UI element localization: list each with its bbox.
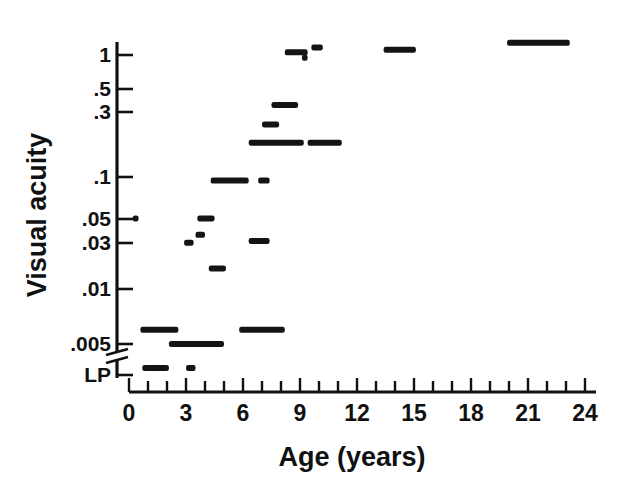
data-marker: age 9.4-11.2, acuity .2 [308,140,342,146]
data-marker: age ~9.3, acuity ~.95 [302,55,308,61]
x-tick-label-2: 6 [237,400,250,426]
data-marker: age 3.6-4.5, acuity .05 [197,215,214,221]
data-marker: age 3.0-3.5, light perception [186,365,196,371]
y-tick-label-7: .005 [70,332,111,355]
data-marker: dot at age 0.3, acuity .05 [133,215,139,221]
data-marker: age 13.4-15.1, acuity ~1.1 [384,47,416,53]
y-tick-label-8: LP [84,363,111,386]
y-tick-label-6: .01 [82,277,112,300]
chart-figure: 1 .5 .3 .1 .05 .03 .01 .005 LP Visual ac… [0,0,631,494]
y-tick-label-3: .1 [93,165,111,188]
x-tick-label-3: 9 [294,400,307,426]
visual-acuity-scatter-plot: 1 .5 .3 .1 .05 .03 .01 .005 LP Visual ac… [0,0,631,494]
data-marker: age 19.9-23.2, acuity ~1.25 [507,40,570,46]
data-marker: age 4.2-5.1, acuity .02 [209,265,226,271]
y-tick-label-2: .3 [93,100,111,123]
data-marker: age 0.7-2.1, light perception [142,365,169,371]
y-tick-label-5: .03 [82,231,111,254]
x-axis-title: Age (years) [278,442,425,472]
data-marker: age 9.6-10.2, acuity ~1.15 [311,44,322,50]
data-marker: age 5.8-8.2, acuity ~.0065 [239,327,285,333]
y-tick-label-1: .5 [93,77,111,100]
data-marker: age 2.9-3.4, acuity ~.032 [184,240,194,246]
x-tick-label-6: 18 [458,400,484,426]
x-tick-label-5: 15 [401,400,427,426]
data-marker: age 7.0-7.9, acuity ~.28 [262,121,279,127]
y-axis-title: Visual acuity [22,133,52,298]
data-marker: age 4.3-6.3, acuity .1 [211,178,249,184]
data-marker: age 0.6-2.6, acuity ~.0065 [140,327,178,333]
x-tick-label-4: 12 [344,400,370,426]
data-marker: age 6.8-7.4, acuity .1 [258,178,269,184]
x-tick-label-7: 21 [515,400,541,426]
data-marker: age 7.5-8.9, acuity ~.4 [272,102,299,108]
x-tick-label-0: 0 [123,400,136,426]
data-marker: age 8.2-9.4, acuity ~1.05 [285,49,308,55]
data-marker: age 2.1-5.0, acuity .005 [169,341,224,347]
x-tick-label-1: 3 [180,400,193,426]
y-tick-label-4: .05 [82,207,112,230]
data-marker: age 6.3-9.2, acuity .2 [249,140,304,146]
data-marker: age 6.3-7.4, acuity ~.033 [249,238,270,244]
y-tick-label-0: 1 [99,43,111,66]
data-marker: age 3.5-4.0, acuity ~.037 [196,232,206,238]
x-tick-label-8: 24 [572,400,598,426]
